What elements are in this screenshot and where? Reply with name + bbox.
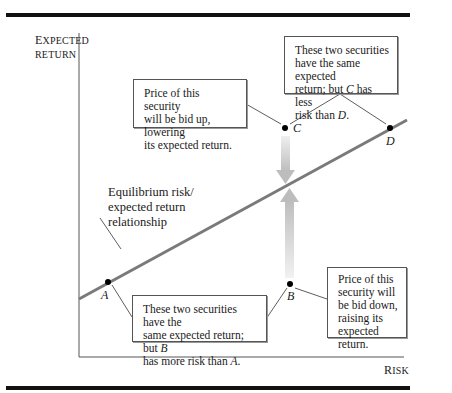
point-a-label: A	[101, 288, 108, 303]
ab-note-line-3: has more risk than A.	[143, 355, 258, 368]
cd-note-var-d: D	[338, 109, 346, 121]
ab-note-line-2-pre: same expected return; but	[143, 329, 244, 354]
c-note-line-3: its expected return.	[144, 139, 238, 152]
b-note-line-1: Price of this	[338, 273, 398, 286]
point-a	[105, 279, 111, 285]
line-label-2: expected return	[108, 200, 194, 215]
point-c	[282, 125, 288, 131]
cd-note-var-c: C	[346, 83, 354, 95]
b-price-note: Price of this security will be bid down,…	[327, 267, 407, 338]
leader-line-ab-b	[266, 288, 287, 319]
y-axis-label-rest: XPECTED	[43, 35, 89, 46]
cd-note-line-1: These two securities	[295, 44, 389, 57]
x-axis-label-initial: R	[384, 363, 392, 377]
cd-comparison-note: These two securities have the same expec…	[284, 36, 398, 94]
ab-note-line-3-pre: has more risk than	[143, 355, 231, 367]
cd-note-line-4-post: .	[346, 109, 349, 121]
y-axis-label: EXPECTED RETURN	[35, 33, 89, 62]
x-axis-label: RISK	[384, 363, 409, 378]
ab-note-var-b: B	[161, 342, 168, 354]
leader-line-c-note	[246, 104, 281, 124]
ab-comparison-note: These two securities have the same expec…	[132, 295, 267, 342]
ab-note-var-a: A	[231, 355, 238, 367]
y-axis-label-line2: RETURN	[35, 49, 76, 60]
c-note-line-1: Price of this security	[144, 87, 238, 113]
point-d-label: D	[386, 134, 395, 149]
up-arrow-icon	[280, 188, 299, 278]
c-price-note: Price of this security will be bid up, l…	[133, 79, 247, 128]
c-note-line-2: will be bid up, lowering	[144, 113, 238, 139]
cd-note-line-3: return; but C has less	[295, 83, 389, 109]
ab-note-line-3-post: .	[238, 355, 241, 367]
cd-note-line-3-pre: return; but	[295, 83, 346, 95]
leader-line-ab-a	[112, 285, 132, 317]
cd-note-line-4-pre: risk than	[295, 109, 338, 121]
cd-note-line-2: have the same expected	[295, 57, 389, 83]
equilibrium-line-label: Equilibrium risk/ expected return relati…	[108, 185, 194, 230]
b-note-line-2: security will	[338, 286, 398, 299]
y-axis-label-initial: E	[35, 33, 43, 47]
point-d	[387, 125, 393, 131]
line-label-1: Equilibrium risk/	[108, 185, 194, 200]
point-b-label: B	[287, 289, 294, 304]
point-c-label: C	[293, 121, 301, 136]
point-b	[287, 281, 293, 287]
b-note-line-4: raising its	[338, 312, 398, 325]
ab-note-line-2: same expected return; but B	[143, 329, 258, 355]
b-note-line-3: be bid down,	[338, 299, 398, 312]
ab-note-line-1: These two securities have the	[143, 303, 258, 329]
down-arrow-icon	[276, 136, 295, 184]
line-label-3: relationship	[108, 215, 194, 230]
b-note-line-5: expected return.	[338, 325, 398, 351]
cd-note-line-4: risk than D.	[295, 109, 389, 122]
leader-line-b-note	[295, 288, 327, 299]
x-axis-label-rest: ISK	[392, 365, 409, 376]
